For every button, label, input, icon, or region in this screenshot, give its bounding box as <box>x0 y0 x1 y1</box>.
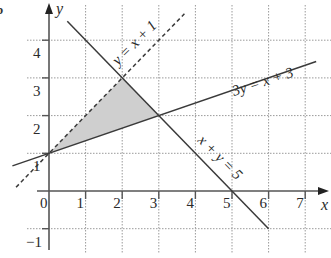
y-tick-label: 3 <box>33 83 41 99</box>
x-tick-label: 0 <box>40 195 48 211</box>
shaded-triangle <box>49 78 159 153</box>
x-tick-label: 7 <box>296 195 304 211</box>
part-label: b <box>0 2 3 18</box>
graph-figure: b 01234567−11234xy y = x + 13y = x + 3x … <box>0 0 331 258</box>
label-3y-equals-x-plus-3: 3y = x + 3 <box>229 64 295 99</box>
x-tick-label: 6 <box>260 195 268 211</box>
y-tick-label: 2 <box>33 121 41 137</box>
x-tick-label: 3 <box>150 195 158 211</box>
y-tick-label: −1 <box>26 234 42 250</box>
x-axis-label: x <box>320 196 328 213</box>
x-tick-label: 4 <box>186 195 194 211</box>
tick-labels: 01234567−11234xy <box>26 0 328 250</box>
y-axis-arrow-icon <box>45 3 53 14</box>
shaded-region <box>49 78 159 153</box>
plot-lines <box>12 14 316 229</box>
y-axis-label: y <box>54 0 64 18</box>
x-tick-label: 5 <box>223 195 231 211</box>
x-tick-label: 2 <box>113 195 121 211</box>
y-tick-label: 4 <box>33 45 41 61</box>
x-axis-arrow-icon <box>318 187 329 195</box>
x-tick-label: 1 <box>77 195 85 211</box>
label-x-plus-y-equals-5: x + y = 5 <box>194 131 246 183</box>
coordinate-plot: 01234567−11234xy y = x + 13y = x + 3x + … <box>0 0 331 258</box>
label-y-equals-x-plus-1: y = x + 1 <box>107 17 159 69</box>
